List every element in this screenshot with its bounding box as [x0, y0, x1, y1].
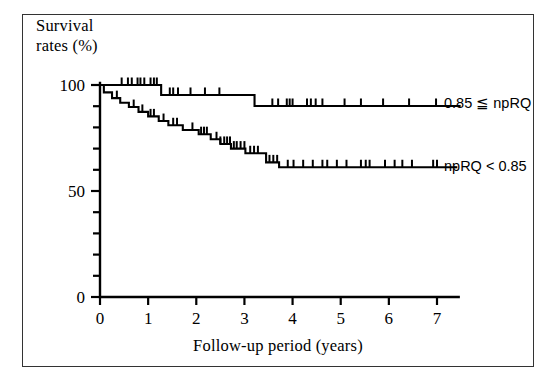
- x-tick-label: 7: [433, 309, 442, 328]
- x-tick-label: 1: [144, 309, 153, 328]
- figure-container: Survival rates (%) Follow-up period (yea…: [0, 0, 556, 382]
- x-tick-label: 2: [192, 309, 201, 328]
- axis-tick-label-layer: 10050001234567: [60, 76, 442, 328]
- y-tick-label: 100: [60, 76, 86, 95]
- x-tick-label: 0: [96, 309, 105, 328]
- x-tick-label: 6: [385, 309, 394, 328]
- survival-curve-upper: [100, 78, 459, 106]
- x-tick-label: 3: [240, 309, 249, 328]
- x-tick-label: 4: [288, 309, 297, 328]
- y-tick-label: 0: [77, 288, 86, 307]
- survival-plot: 10050001234567: [0, 0, 556, 382]
- x-tick-label: 5: [336, 309, 345, 328]
- y-tick-label: 50: [68, 182, 85, 201]
- survival-curve-lower: [100, 85, 455, 167]
- axis-layer: [91, 83, 459, 305]
- curve-layer: [100, 78, 461, 168]
